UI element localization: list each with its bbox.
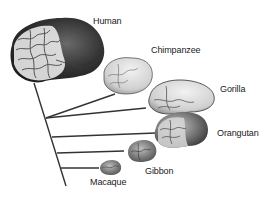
tree-lines [34, 83, 156, 186]
branch-orangutan [52, 133, 156, 137]
brain-gibbon [128, 140, 156, 162]
brain-gorilla [149, 80, 214, 114]
label-macaque: Macaque [90, 177, 126, 187]
label-gorilla: Gorilla [220, 84, 245, 94]
brain-human [11, 18, 105, 83]
brain-chimpanzee [104, 58, 152, 94]
branch-gibbon [57, 151, 124, 153]
brain-orangutan [155, 112, 208, 148]
brain-macaque [100, 160, 121, 175]
label-human: Human [93, 16, 122, 26]
label-chimpanzee: Chimpanzee [151, 45, 201, 55]
label-orangutan: Orangutan [217, 128, 259, 138]
trunk-line [34, 83, 66, 186]
tree-diagram-svg [0, 0, 275, 200]
label-gibbon: Gibbon [145, 166, 173, 176]
brain-evolution-diagram: Human Chimpanzee Gorilla Orangutan Gibbo… [0, 0, 275, 200]
